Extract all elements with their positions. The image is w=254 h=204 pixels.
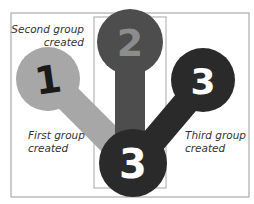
group-2-number: 2 (117, 21, 143, 65)
label-third-group-line1: Third group (185, 129, 246, 141)
grouping-diagram: 1 2 3 3 Second group created First group… (0, 0, 254, 204)
group-3-number-bottom: 3 (119, 141, 147, 187)
label-third-group-line2: created (185, 142, 226, 154)
label-first-group-line2: created (28, 142, 69, 154)
label-second-group-line2: created (44, 36, 85, 48)
label-first-group-line1: First group (28, 129, 85, 141)
label-second-group-line1: Second group (11, 23, 84, 35)
group-3-number-top: 3 (190, 61, 215, 102)
